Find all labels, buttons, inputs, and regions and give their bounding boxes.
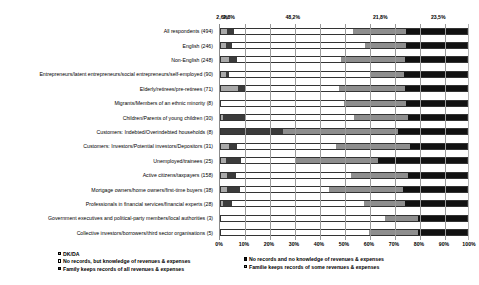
stacked-bar (220, 200, 468, 207)
bar-segment-4 (406, 29, 467, 34)
x-tick-label: 70% (389, 241, 399, 247)
gridline (295, 24, 296, 240)
gridline (245, 24, 246, 240)
bar-segment-3 (344, 101, 406, 106)
bar-segment-0 (221, 57, 229, 62)
category-label: Children/Parents of young children (30) (123, 115, 213, 121)
category-label: Professionals in financial services/fina… (86, 201, 213, 207)
category-label: All respondents (494) (164, 28, 213, 34)
bar-segment-4 (406, 43, 467, 48)
legend-item: DK/DA (58, 250, 190, 257)
stacked-bar (220, 42, 468, 49)
chart-legend: DK/DANo records, but knowledge of revenu… (0, 250, 479, 280)
x-tick-label: 100% (462, 241, 475, 247)
bar-segment-3 (283, 129, 399, 134)
category-label: Unemployed/trainees (25) (153, 158, 213, 164)
bar-segment-0 (221, 144, 229, 149)
bar-segment-3 (336, 144, 411, 149)
x-tick-label: 20% (264, 241, 274, 247)
bar-segment-4 (405, 57, 467, 62)
stacked-bar (220, 186, 468, 193)
stacked-bar (220, 85, 468, 92)
bar-segment-3 (369, 230, 418, 235)
legend-item: No records, but knowledge of revenues & … (58, 258, 190, 265)
bar-segment-3 (329, 187, 403, 192)
category-label: Customers: Indebted/Overindebted househo… (97, 129, 214, 135)
bar-segment-2 (246, 115, 354, 120)
bar-segment-1 (227, 173, 236, 178)
bar-segment-3 (354, 115, 408, 120)
bar-segment-3 (371, 72, 404, 77)
legend-swatch-icon (244, 257, 247, 260)
bar-row (220, 211, 468, 225)
value-label: 21,8% (373, 14, 388, 20)
bar-segment-1 (227, 187, 240, 192)
legend-item: Family keeps records of all revenues & e… (58, 265, 190, 272)
category-label: Customers: Investors/Potential investors… (83, 143, 213, 149)
bar-segment-2 (232, 201, 363, 206)
stacked-bar (220, 143, 468, 150)
category-label: English (246) (182, 43, 213, 49)
bar-segment-3 (295, 158, 379, 163)
legend-label: No records, but knowledge of revenues & … (63, 258, 190, 264)
x-tick-label: 30% (289, 241, 299, 247)
bar-segment-1 (223, 201, 232, 206)
bar-segment-3 (353, 29, 407, 34)
gridline (345, 24, 346, 240)
bar-segment-4 (398, 129, 467, 134)
stacked-bar-chart: 2,6%2,8%48,2%21,8%23,5% All respondents … (0, 0, 479, 285)
bar-row (220, 168, 468, 182)
stacked-bar (220, 215, 468, 222)
bar-segment-4 (403, 187, 467, 192)
legend-label: DK/DA (63, 251, 79, 257)
stacked-bar (220, 100, 468, 107)
bar-segment-2 (229, 72, 371, 77)
bar-segment-2 (237, 57, 341, 62)
bar-segment-2 (234, 29, 353, 34)
bar-segment-2 (236, 173, 351, 178)
bar-row (220, 226, 468, 240)
value-label: 23,5% (431, 14, 446, 20)
stacked-bar (220, 71, 468, 78)
bar-segment-4 (405, 201, 467, 206)
stacked-bar (220, 28, 468, 35)
bar-segment-1 (226, 158, 241, 163)
bar-segment-1 (229, 144, 237, 149)
bar-row (220, 24, 468, 38)
bar-segment-4 (408, 173, 467, 178)
bar-segment-4 (404, 72, 467, 77)
gridline (320, 24, 321, 240)
value-label-row: 2,6%2,8%48,2%21,8%23,5% (219, 14, 469, 24)
bar-segment-4 (405, 86, 467, 91)
category-label: Collective investors/borrowers/third sec… (77, 230, 213, 236)
legend-label: Family keeps records of all revenues & e… (63, 266, 184, 272)
stacked-bar (220, 172, 468, 179)
category-label: Entrepreneurs/latent entrepreneurs/socia… (39, 71, 213, 77)
bar-row (220, 139, 468, 153)
x-tick-label: 80% (414, 241, 424, 247)
bar-row (220, 67, 468, 81)
bar-row (220, 182, 468, 196)
legend-item: Familie keeps records of some revenues &… (244, 263, 384, 270)
x-tick-label: 90% (439, 241, 449, 247)
legend-swatch-icon (244, 265, 247, 268)
bar-segment-4 (408, 115, 467, 120)
bar-row (220, 154, 468, 168)
category-axis-labels: All respondents (494)English (246)Non-En… (0, 24, 216, 240)
category-label: Active citizens/taxpayers (158) (143, 172, 213, 178)
legend-column-left: DK/DANo records, but knowledge of revenu… (58, 250, 190, 273)
bar-row (220, 197, 468, 211)
bar-row (220, 82, 468, 96)
x-axis-tick-labels: 0%10%20%30%40%50%60%70%80%90%100% (219, 240, 469, 250)
legend-column-right: No records and no knowledge of revenues … (244, 256, 384, 271)
bar-row (220, 110, 468, 124)
legend-swatch-icon (58, 259, 61, 262)
bar-row (220, 125, 468, 139)
bar-segment-1 (229, 57, 237, 62)
stacked-bar (220, 229, 468, 236)
stacked-bar (220, 56, 468, 63)
value-label: 2,8% (223, 14, 235, 20)
gridline (420, 24, 421, 240)
gridline (445, 24, 446, 240)
bar-segment-3 (385, 216, 418, 221)
